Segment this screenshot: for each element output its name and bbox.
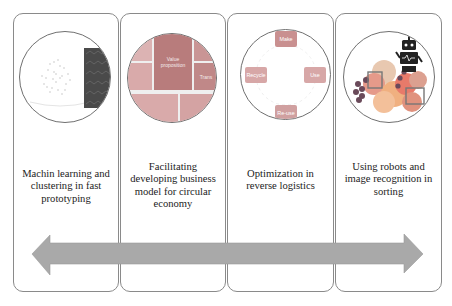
panel-caption: Machin learning and clustering in fast p… [14,168,118,205]
canvas-tile [180,94,217,123]
panel-machine-learning: Machin learning and clustering in fast p… [13,13,119,292]
business-model-canvas-image: Value proposition Trans [127,33,217,123]
clustering-scatter-image [19,31,111,123]
panel-reverse-logistics: Make Use Re-use Recycle Optimization in … [227,13,334,292]
cycle-node-recycle: Recycle [245,67,267,83]
panel-robot-sorting: Using robots and image recognition in so… [335,13,442,292]
canvas-tile [128,63,152,90]
cycle-node-reuse: Re-use [275,105,297,120]
canvas-tile [128,94,178,123]
scatter-plot-icon [20,32,111,123]
canvas-tile [194,34,217,61]
panel-caption: Using robots and image recognition in so… [336,161,441,198]
panel-caption: Optimization in reverse logistics [228,168,333,193]
robot-fruit-recognition-image [343,31,435,123]
canvas-value-proposition: Value proposition [154,34,192,90]
robot-icon [396,36,422,72]
fruit-pile-icon [344,32,435,123]
cycle-node-make: Make [275,31,297,47]
canvas-tile [128,34,152,61]
circular-cycle-image: Make Use Re-use Recycle [240,29,331,120]
panel-caption: Facilitating developing business model f… [121,161,225,211]
cycle-node-use: Use [304,67,326,83]
panel-business-model: Value proposition Trans Facilitating dev… [120,13,226,292]
canvas-tile-transport: Trans [194,63,217,90]
